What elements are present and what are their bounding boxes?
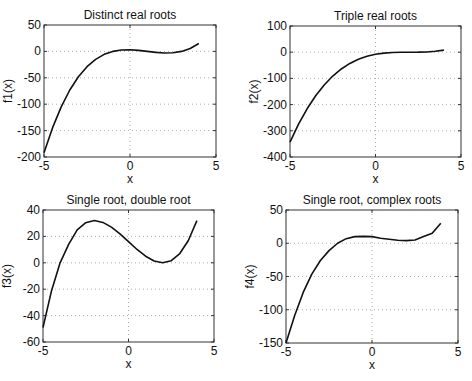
y-tick-label: -150	[259, 336, 283, 350]
y-tick-label: -100	[259, 303, 283, 317]
chart-title: Distinct real roots	[84, 8, 177, 22]
y-tick-label: -40	[23, 309, 41, 323]
y-tick-label: 20	[27, 229, 41, 243]
chart-title: Single root, complex roots	[303, 193, 442, 207]
x-axis-label: x	[373, 172, 379, 186]
y-tick-label: -60	[23, 335, 41, 349]
y-tick-label: 0	[33, 256, 40, 270]
function-curve	[44, 43, 199, 152]
x-tick-label: 5	[458, 159, 465, 173]
y-tick-label: -100	[263, 71, 287, 85]
y-tick-label: 40	[27, 203, 41, 217]
y-tick-label: 0	[280, 45, 287, 59]
x-tick-label: 0	[369, 345, 376, 359]
x-tick-label: 5	[213, 159, 220, 173]
subplot-3: -505-60-40-2002040Single root, double ro…	[0, 193, 218, 371]
y-tick-label: 0	[34, 44, 41, 58]
grid-lines	[290, 26, 461, 157]
function-curve	[290, 50, 444, 142]
x-tick-label: 5	[455, 345, 462, 359]
y-tick-label: -50	[24, 71, 42, 85]
y-tick-label: 0	[276, 236, 283, 250]
function-curve	[286, 223, 441, 343]
y-tick-label: -100	[17, 97, 41, 111]
x-tick-label: 0	[125, 344, 132, 358]
subplot-1: -505-200-150-100-50050Distinct real root…	[1, 8, 220, 186]
grid-lines	[286, 210, 458, 343]
y-tick-label: -200	[17, 150, 41, 164]
x-axis-label: x	[369, 358, 375, 372]
grid-lines	[43, 210, 214, 342]
axes-box	[290, 26, 461, 157]
y-tick-label: -150	[17, 124, 41, 138]
y-tick-label: -20	[23, 282, 41, 296]
chart-title: Triple real roots	[334, 9, 417, 23]
y-tick-label: 50	[28, 18, 42, 32]
x-tick-label: 0	[372, 159, 379, 173]
subplot-4: -505-150-100-50050Single root, complex r…	[243, 193, 462, 372]
y-tick-label: -200	[263, 98, 287, 112]
chart-title: Single root, double root	[66, 193, 191, 207]
axes-box	[286, 210, 458, 343]
y-axis-label: f1(x)	[1, 79, 15, 103]
y-tick-label: -400	[263, 150, 287, 164]
x-axis-label: x	[127, 172, 133, 186]
x-tick-label: 0	[127, 159, 134, 173]
y-axis-label: f2(x)	[247, 79, 261, 103]
figure: -505-200-150-100-50050Distinct real root…	[0, 0, 472, 381]
x-tick-label: 5	[211, 344, 218, 358]
x-axis-label: x	[126, 357, 132, 371]
y-axis-label: f3(x)	[0, 264, 14, 288]
y-axis-label: f4(x)	[243, 264, 257, 288]
y-tick-label: 100	[267, 19, 287, 33]
y-tick-label: 50	[270, 203, 284, 217]
y-tick-label: -50	[266, 270, 284, 284]
subplot-2: -505-400-300-200-1000100Triple real root…	[247, 9, 465, 186]
y-tick-label: -300	[263, 124, 287, 138]
